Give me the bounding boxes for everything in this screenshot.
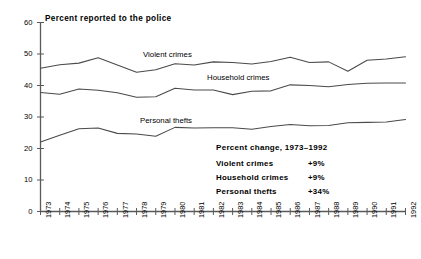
x-tick-label: 1973 (44, 201, 53, 217)
y-tick-label: 60 (11, 18, 33, 27)
annotation-row-name: Violent crimes (216, 159, 308, 168)
x-tick-label: 1990 (370, 201, 379, 217)
x-tick-label: 1991 (389, 201, 398, 217)
x-tick-label: 1974 (63, 201, 72, 217)
y-tick-label: 50 (11, 49, 33, 58)
plot-area (0, 0, 421, 259)
x-tick-label: 1985 (274, 201, 283, 217)
series-lines (41, 57, 406, 142)
annotation-row-value: +34% (308, 187, 348, 196)
x-tick-label: 1984 (255, 201, 264, 217)
x-tick-label: 1975 (82, 201, 91, 217)
series-label-violent-crimes: Violent crimes (143, 50, 192, 59)
x-tick-label: 1988 (332, 201, 341, 217)
x-tick-label: 1982 (217, 201, 226, 217)
x-tick-label: 1989 (351, 201, 360, 217)
x-tick-label: 1983 (236, 201, 245, 217)
x-tick-label: 1987 (313, 201, 322, 217)
y-tick-label: 0 (11, 207, 33, 216)
x-tick-label: 1976 (101, 201, 110, 217)
y-tick-label: 40 (11, 81, 33, 90)
x-tick-label: 1977 (121, 201, 130, 217)
series-line-household-crimes (41, 83, 406, 97)
series-line-violent-crimes (41, 57, 406, 72)
annotation-row-value: +9% (308, 173, 348, 182)
x-tick-label: 1981 (197, 201, 206, 217)
x-tick-label: 1978 (140, 201, 149, 217)
annotation-row-value: +9% (308, 159, 348, 168)
y-tick-label: 20 (11, 144, 33, 153)
series-label-household-crimes: Household crimes (207, 73, 269, 82)
series-label-personal-thefts: Personal thefts (140, 116, 192, 125)
annotation-row-name: Personal thefts (216, 187, 308, 196)
x-tick-label: 1979 (159, 201, 168, 217)
x-tick-label: 1992 (409, 201, 418, 217)
x-tick-label: 1986 (293, 201, 302, 217)
annotation-row-name: Household crimes (216, 173, 308, 182)
annotation-row: Personal thefts+34% (216, 187, 348, 201)
annotation-rows: Violent crimes+9%Household crimes+9%Pers… (216, 159, 348, 201)
y-tick-label: 10 (11, 175, 33, 184)
x-tick-label: 1980 (178, 201, 187, 217)
chart-container: Percent reported to the police 010203040… (0, 0, 421, 259)
series-line-personal-thefts (41, 120, 406, 142)
annotation-row: Household crimes+9% (216, 173, 348, 187)
annotation-title: Percent change, 1973–1992 (216, 143, 328, 152)
annotation-row: Violent crimes+9% (216, 159, 348, 173)
y-tick-label: 30 (11, 112, 33, 121)
